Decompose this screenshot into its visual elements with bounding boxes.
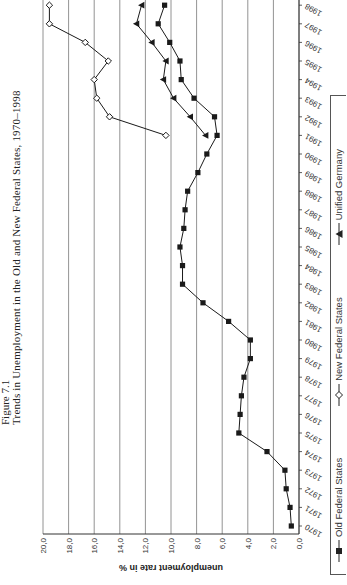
data-point — [236, 430, 241, 435]
x-tick-label: 1984 — [303, 262, 323, 279]
data-point — [248, 337, 253, 342]
x-tick-label: 1988 — [303, 187, 323, 204]
y-tick-label: 6,0 — [218, 537, 227, 549]
data-point — [287, 505, 292, 510]
x-tick-label: 1977 — [303, 392, 323, 409]
data-point — [163, 132, 169, 138]
data-point — [195, 170, 200, 175]
data-point — [191, 96, 196, 101]
data-point — [282, 468, 287, 473]
legend-item-old-federal-states: Old Federal States — [333, 458, 344, 562]
x-tick-label: 1994 — [303, 76, 323, 93]
data-point — [160, 76, 166, 83]
x-tick-label: 1997 — [303, 20, 323, 37]
data-point — [238, 412, 243, 417]
x-tick-label: 1978 — [303, 373, 323, 390]
series-line-old-federal-states — [158, 5, 291, 526]
data-point — [289, 523, 294, 528]
x-tick-label: 1974 — [303, 448, 323, 465]
data-point — [180, 263, 185, 268]
x-tick-label: 1987 — [303, 206, 323, 223]
x-tick-label: 1979 — [303, 355, 323, 372]
rotated-figure: Figure 7.1 Trends in Unemployment in the… — [0, 0, 347, 585]
y-tick-label: 12,0 — [141, 537, 150, 553]
y-tick-label: 2,0 — [269, 537, 278, 549]
legend-item-new-federal-states: New Federal States — [333, 297, 344, 405]
x-tick-label: 1996 — [303, 38, 323, 55]
y-tick-label: 10,0 — [167, 537, 176, 553]
data-point — [204, 151, 209, 156]
filled-triangle-marker-icon — [335, 223, 343, 245]
data-point — [167, 40, 172, 45]
data-point — [239, 393, 244, 398]
x-tick-label: 1981 — [303, 317, 323, 334]
y-tick-label: 16,0 — [90, 537, 99, 553]
x-tick-label: 1989 — [303, 169, 323, 186]
data-point — [106, 114, 112, 120]
y-tick-label: 18,0 — [65, 537, 74, 553]
data-point — [226, 319, 231, 324]
filled-square-marker-icon — [335, 540, 343, 562]
y-tick-label: 4,0 — [244, 537, 253, 549]
y-axis-title: unemployment rate in % — [119, 563, 223, 573]
y-tick-label: 20,0 — [39, 537, 48, 553]
x-tick-label: 1990 — [303, 150, 323, 167]
data-point — [185, 189, 190, 194]
x-tick-label: 1972 — [303, 485, 323, 502]
legend-label: New Federal States — [333, 297, 344, 380]
x-tick-label: 1976 — [303, 410, 323, 427]
x-tick-label: 1986 — [303, 224, 323, 241]
y-tick-label: 8,0 — [193, 537, 202, 549]
x-tick-label: 1983 — [303, 280, 323, 297]
data-point — [156, 21, 161, 26]
data-point — [46, 2, 52, 8]
data-point — [133, 20, 139, 27]
data-point — [214, 133, 219, 138]
x-tick-label: 1975 — [303, 429, 323, 446]
x-tick-label: 1995 — [303, 57, 323, 74]
open-diamond-marker-icon — [335, 384, 343, 406]
data-point — [264, 449, 269, 454]
data-point — [180, 282, 185, 287]
data-point — [177, 244, 182, 249]
data-point — [46, 21, 52, 27]
x-tick-label: 1971 — [303, 503, 323, 520]
legend-item-unified-germany: Unified Germany — [333, 149, 344, 245]
data-point — [200, 300, 205, 305]
x-tick-label: 1973 — [303, 466, 323, 483]
data-point — [177, 58, 182, 63]
x-tick-label: 1985 — [303, 243, 323, 260]
x-tick-label: 1980 — [303, 336, 323, 353]
legend-label: Unified Germany — [333, 149, 344, 220]
data-point — [162, 3, 167, 8]
legend: Old Federal States New Federal States Un… — [330, 95, 346, 575]
y-tick-label: 14,0 — [116, 537, 125, 553]
data-point — [181, 226, 186, 231]
legend-label: Old Federal States — [333, 458, 344, 537]
x-tick-label: 1982 — [303, 299, 323, 316]
y-tick-label: 0,0 — [295, 537, 304, 549]
x-tick-label: 1970 — [303, 522, 323, 539]
data-point — [248, 356, 253, 361]
x-tick-label: 1993 — [303, 94, 323, 111]
data-point — [182, 207, 187, 212]
data-point — [212, 114, 217, 119]
data-point — [284, 486, 289, 491]
line-chart: 0,02,04,06,08,010,012,014,016,018,020,0u… — [0, 0, 347, 585]
data-point — [179, 77, 184, 82]
x-tick-label: 1992 — [303, 113, 323, 130]
x-tick-label: 1998 — [303, 1, 323, 18]
x-tick-label: 1991 — [303, 131, 323, 148]
data-point — [241, 375, 246, 380]
